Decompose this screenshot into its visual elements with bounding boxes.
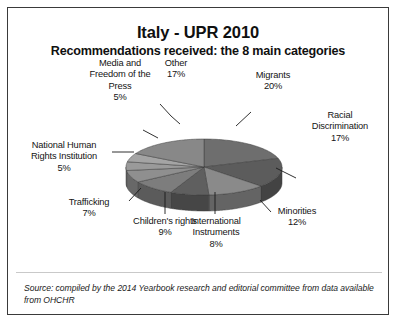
pie-label-racial-line1: Racial — [328, 110, 353, 120]
pie-label-national-human-rights-institution: National Human Rights Institution 5% — [14, 140, 114, 174]
pie-label-children-pct: 9% — [121, 227, 209, 238]
pie-label-instruments-pct: 8% — [177, 239, 255, 250]
leader-line-migrants — [236, 112, 251, 126]
page-title: Italy - UPR 2010 — [8, 22, 388, 42]
pie-label-racial-line2: Discrimination — [312, 121, 368, 131]
source-note: Source: compiled by the 2014 Yearbook re… — [24, 282, 376, 307]
pie-label-racial-discrimination: Racial Discrimination 17% — [296, 110, 384, 144]
pie-label-media-pct: 5% — [70, 92, 170, 103]
pie-label-other-line1: Other — [165, 58, 188, 68]
pie-label-migrants: Migrants 20% — [237, 70, 309, 93]
pie-label-trafficking-pct: 7% — [56, 208, 122, 219]
pie-label-nhri-pct: 5% — [14, 163, 114, 174]
pie-label-media-line1: Media and — [99, 58, 141, 68]
chart-frame: Italy - UPR 2010 Recommendations receive… — [7, 7, 389, 315]
pie-label-childrens-rights: Children's rights 9% — [121, 216, 209, 239]
pie-label-other: Other 17% — [147, 58, 205, 81]
title-block: Italy - UPR 2010 Recommendations receive… — [8, 22, 388, 60]
pie-slices-group — [126, 139, 282, 211]
pie-label-media-line2: Freedom of the — [90, 69, 151, 79]
pie-label-trafficking: Trafficking 7% — [56, 197, 122, 220]
leader-line-media — [143, 130, 158, 138]
pie-chart-plot: Media and Freedom of the Press 5% Other … — [8, 64, 390, 269]
pie-label-minorities-line1: Minorities — [278, 206, 316, 216]
pie-label-nhri-line2: Rights Institution — [31, 151, 97, 161]
leader-line-other — [160, 104, 180, 124]
pie-label-migrants-line1: Migrants — [256, 70, 290, 80]
pie-label-migrants-pct: 20% — [237, 81, 309, 92]
pie-label-other-pct: 17% — [147, 69, 205, 80]
pie-label-minorities-pct: 12% — [266, 217, 328, 228]
pie-label-children-line1: Children's rights — [133, 216, 197, 226]
pie-label-nhri-line1: National Human — [32, 140, 97, 150]
pie-label-trafficking-line1: Trafficking — [69, 197, 110, 207]
pie-label-racial-pct: 17% — [296, 133, 384, 144]
footer-divider — [16, 272, 382, 273]
pie-label-minorities: Minorities 12% — [266, 206, 328, 229]
pie-label-media-line3: Press — [108, 81, 131, 91]
